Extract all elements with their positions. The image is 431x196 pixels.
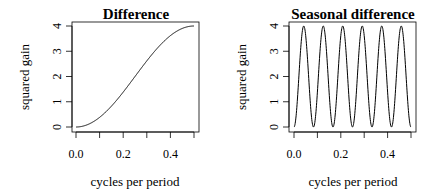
x-tick-label: 0.2: [116, 147, 131, 161]
x-tick-label: 0.0: [287, 147, 302, 161]
chart-canvas: Difference 01234 0.00.20.4 squared gain …: [0, 0, 431, 196]
y-axis-label: squared gain: [234, 43, 249, 110]
panel-seasonal-difference: Seasonal difference 01234 0.00.20.4 squa…: [234, 6, 416, 189]
y-axis: 01234: [50, 23, 72, 130]
x-tick-label: 0.4: [163, 147, 178, 161]
y-tick-label: 2: [267, 74, 281, 80]
x-axis: 0.00.20.4: [69, 132, 195, 161]
plot-box: [289, 22, 416, 132]
y-tick-label: 1: [267, 99, 281, 105]
chart-title: Difference: [103, 6, 170, 22]
plot-box: [72, 22, 199, 132]
gain-curve: [76, 26, 194, 127]
y-tick-label: 2: [50, 74, 64, 80]
y-tick-label: 4: [50, 23, 64, 29]
y-axis-label: squared gain: [17, 43, 32, 110]
x-tick-label: 0.2: [333, 147, 348, 161]
x-axis-label: cycles per period: [309, 174, 398, 189]
y-tick-label: 0: [267, 124, 281, 130]
y-tick-label: 4: [267, 23, 281, 29]
gain-curve: [294, 26, 411, 127]
x-axis: 0.00.20.4: [287, 132, 412, 161]
x-tick-label: 0.4: [380, 147, 395, 161]
y-tick-label: 3: [50, 48, 64, 54]
panel-difference: Difference 01234 0.00.20.4 squared gain …: [17, 6, 199, 189]
x-tick-label: 0.0: [69, 147, 84, 161]
y-tick-label: 3: [267, 48, 281, 54]
y-axis: 01234: [267, 23, 289, 130]
y-tick-label: 0: [50, 124, 64, 130]
y-tick-label: 1: [50, 99, 64, 105]
x-axis-label: cycles per period: [91, 174, 180, 189]
chart-title: Seasonal difference: [291, 6, 415, 22]
